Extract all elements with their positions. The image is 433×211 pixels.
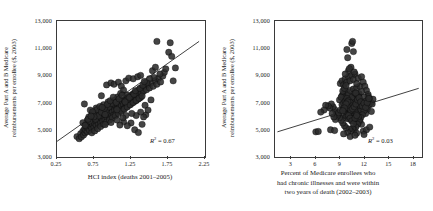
data-point — [340, 108, 346, 114]
panel-hci-index: Average Part A and B Medicare reimbursem… — [0, 0, 217, 211]
data-point — [148, 97, 154, 103]
x-tick-mark — [167, 156, 168, 159]
data-point — [114, 117, 120, 123]
x-axis-title-right: Percent of Medicare enrollees who had ch… — [232, 168, 424, 197]
data-point — [145, 107, 151, 113]
data-point — [120, 115, 126, 121]
data-point — [167, 40, 173, 46]
data-point — [137, 72, 143, 78]
data-point — [154, 38, 160, 44]
y-axis-ticks-left: 3,0005,0007,0009,00011,00013,000 — [10, 20, 52, 156]
x-tick-mark — [413, 156, 414, 159]
y-tick-label: 9,000 — [256, 71, 270, 78]
x-tick-mark — [93, 156, 94, 159]
data-point — [170, 78, 176, 84]
scatter-plot-left — [57, 21, 205, 157]
x-tick-label: 1.75 — [162, 160, 173, 167]
x-tick-label: 9 — [338, 160, 341, 167]
data-point — [368, 108, 374, 114]
data-point — [352, 132, 358, 138]
x-tick-label: 0.25 — [51, 160, 62, 167]
x-tick-mark — [339, 156, 340, 159]
x-axis-title-left: HCI index (deaths 2001–2005) — [26, 172, 234, 182]
data-point — [81, 101, 87, 107]
y-tick-label: 5,000 — [256, 125, 270, 132]
data-point — [129, 110, 135, 116]
data-point — [139, 93, 145, 99]
data-point — [172, 65, 178, 71]
x-tick-mark — [290, 156, 291, 159]
x-tick-label: 15 — [385, 160, 391, 167]
x-tick-mark — [130, 156, 131, 159]
data-point — [163, 66, 169, 72]
data-point — [139, 121, 145, 127]
x-tick-label: 3 — [289, 160, 292, 167]
data-point — [315, 128, 321, 134]
data-point — [318, 109, 324, 115]
y-tick-label: 7,000 — [38, 98, 52, 105]
r-exponent-right: 2 — [372, 136, 374, 141]
data-point — [350, 48, 356, 54]
x-tick-label: 2.25 — [199, 160, 210, 167]
data-point — [157, 79, 163, 85]
data-point — [135, 129, 141, 135]
r-value-right: = 0.03 — [376, 137, 393, 144]
y-tick-label: 11,000 — [253, 44, 270, 51]
r-exponent-left: 2 — [154, 136, 156, 141]
y-tick-label: 13,000 — [252, 17, 270, 24]
data-point — [157, 71, 163, 77]
x-tick-mark — [364, 156, 365, 159]
data-point — [331, 127, 337, 133]
x-tick-mark — [315, 156, 316, 159]
x-tick-mark — [204, 156, 205, 159]
data-point — [114, 106, 120, 112]
y-tick-label: 13,000 — [34, 17, 52, 24]
data-point — [344, 55, 350, 61]
data-point — [344, 46, 350, 52]
data-point — [152, 64, 158, 70]
data-point — [108, 119, 114, 125]
data-point — [346, 65, 352, 71]
data-point — [340, 131, 346, 137]
x-tick-label: 0.75 — [88, 160, 99, 167]
data-point — [361, 131, 367, 137]
scatter-figure-pair: Average Part A and B Medicare reimbursem… — [0, 0, 433, 211]
data-point — [141, 78, 147, 84]
data-point — [98, 93, 104, 99]
r-squared-annotation-right: R2 = 0.03 — [368, 136, 393, 144]
data-point — [99, 104, 105, 110]
x-tick-mark — [388, 156, 389, 159]
data-point — [119, 92, 125, 98]
x-tick-label: 18 — [410, 160, 416, 167]
scatter-plot-right — [275, 21, 422, 157]
data-point — [343, 82, 349, 88]
data-point — [353, 112, 359, 118]
y-tick-label: 9,000 — [38, 71, 52, 78]
y-tick-label: 3,000 — [256, 153, 270, 160]
r-squared-annotation-left: R2 = 0.67 — [150, 136, 175, 144]
data-point — [102, 121, 108, 127]
data-point — [102, 111, 108, 117]
plot-area-left — [56, 20, 206, 158]
plot-area-right — [274, 20, 423, 158]
x-axis-ticks-left: 0.250.751.251.752.25 — [56, 160, 204, 172]
y-tick-label: 3,000 — [38, 153, 52, 160]
data-point — [82, 122, 88, 128]
x-tick-label: 12 — [361, 160, 367, 167]
data-point — [342, 71, 348, 77]
r-value-left: = 0.67 — [158, 137, 175, 144]
y-axis-ticks-right: 3,0005,0007,0009,00011,00013,000 — [228, 20, 270, 156]
data-point — [88, 113, 94, 119]
data-point — [169, 53, 175, 59]
y-tick-label: 5,000 — [38, 125, 52, 132]
data-point — [366, 95, 372, 101]
x-tick-label: 1.25 — [125, 160, 136, 167]
data-point — [367, 124, 373, 130]
panel-chronic-illness: Average Part A and B Medicare reimbursem… — [216, 0, 433, 211]
x-tick-mark — [56, 156, 57, 159]
data-point — [349, 38, 355, 44]
y-tick-label: 7,000 — [256, 98, 270, 105]
y-tick-label: 11,000 — [35, 44, 52, 51]
x-tick-label: 6 — [313, 160, 316, 167]
